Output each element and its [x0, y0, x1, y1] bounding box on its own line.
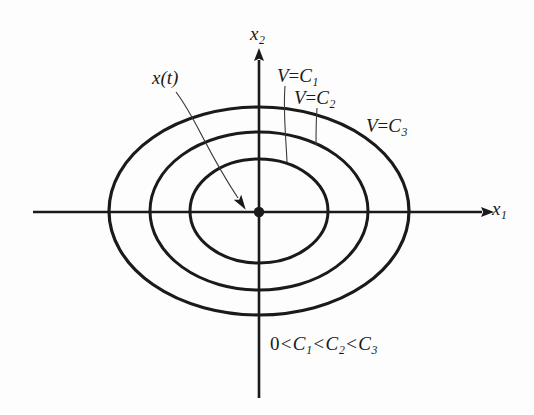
caption-op-2: < — [312, 333, 325, 354]
caption-c2: C — [325, 333, 338, 354]
constant-ordering-caption: 0<C1<C2<C3 — [270, 334, 378, 353]
leader-line-c1 — [284, 86, 287, 162]
level-label-c1-lhs: V — [277, 65, 289, 86]
caption-c1: C — [293, 333, 306, 354]
level-label-c2-op: = — [306, 87, 317, 108]
figure-canvas: x2 x1 x(t) V=C1 V=C2 V=C3 0<C1<C2<C3 — [0, 0, 534, 415]
caption-zero: 0 — [270, 333, 280, 354]
x1-axis-label: x1 — [492, 199, 507, 218]
caption-op-1: < — [280, 333, 293, 354]
level-label-c2: V=C2 — [294, 88, 335, 107]
level-label-c3-op: = — [378, 115, 389, 136]
leader-line-c2 — [316, 108, 317, 145]
x2-axis-label-sub: 2 — [258, 34, 264, 47]
level-label-c3-sub: 3 — [401, 126, 407, 139]
caption-c1-sub: 1 — [306, 344, 313, 357]
x1-axis-label-sub: 1 — [500, 209, 506, 222]
axis-group — [33, 60, 482, 398]
level-label-c1-rhs: C — [299, 65, 312, 86]
x2-axis-label: x2 — [250, 24, 265, 43]
level-curves-plot — [0, 0, 534, 415]
level-label-c1: V=C1 — [277, 66, 318, 85]
level-label-c1-op: = — [289, 65, 300, 86]
level-label-c2-rhs: C — [316, 87, 329, 108]
caption-op-3: < — [345, 333, 358, 354]
level-label-c3-lhs: V — [366, 115, 378, 136]
level-label-c3-rhs: C — [388, 115, 401, 136]
caption-c2-sub: 2 — [338, 344, 345, 357]
caption-c3-sub: 3 — [371, 344, 378, 357]
level-label-c2-sub: 2 — [329, 98, 335, 111]
level-label-c2-lhs: V — [294, 87, 306, 108]
caption-c3: C — [358, 333, 371, 354]
level-label-c3: V=C3 — [366, 116, 407, 135]
trajectory-label: x(t) — [152, 68, 178, 87]
origin-dot — [254, 207, 264, 217]
